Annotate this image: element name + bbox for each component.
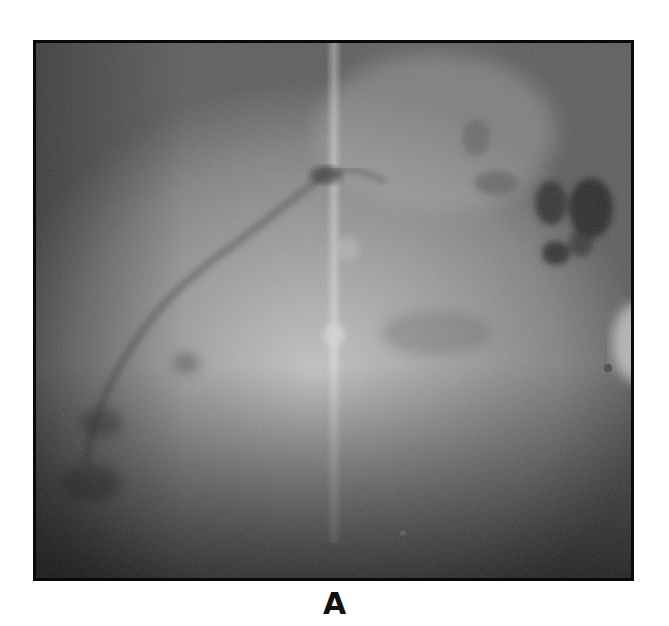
panel-label: A <box>0 586 669 622</box>
grayscale-image-frame <box>33 40 634 581</box>
figure-panel: A <box>0 0 669 626</box>
retinal-image-icon <box>36 43 631 578</box>
